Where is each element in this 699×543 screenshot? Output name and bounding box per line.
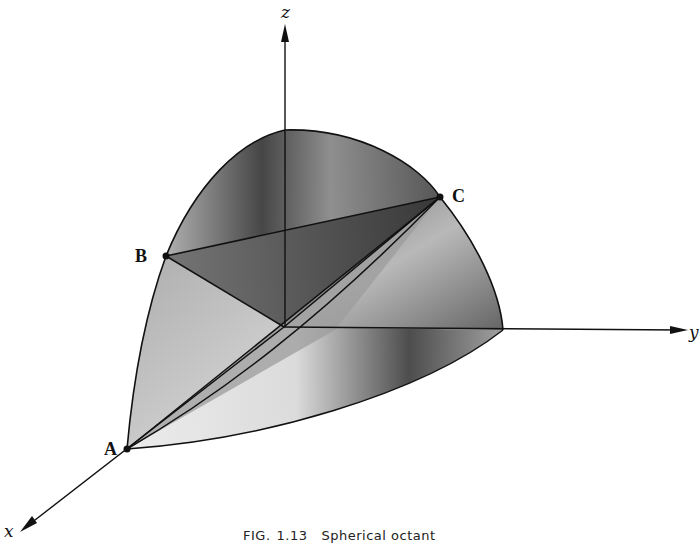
point-C-label: C — [452, 186, 465, 206]
caption-text: Spherical octant — [321, 528, 435, 543]
y-axis-label: y — [688, 322, 699, 342]
x-axis-arrowhead — [20, 516, 37, 532]
caption-prefix: FIG. — [243, 528, 271, 543]
caption-number: 1.13 — [277, 528, 308, 543]
point-B-marker — [163, 253, 170, 260]
point-A-label: A — [104, 439, 117, 459]
point-C-marker — [437, 194, 444, 201]
figure-caption: FIG.1.13Spherical octant — [243, 528, 436, 543]
y-axis-arrowhead — [670, 326, 688, 334]
point-A-marker — [124, 446, 131, 453]
point-B-label: B — [135, 246, 147, 266]
z-axis-arrowhead — [281, 24, 289, 42]
x-axis-label: x — [4, 521, 14, 541]
z-axis-label: z — [280, 2, 291, 22]
